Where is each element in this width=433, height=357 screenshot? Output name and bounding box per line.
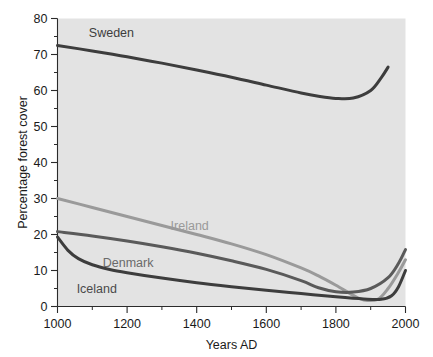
y-tick-label-0: 0	[41, 300, 48, 314]
y-tick-label-20: 20	[34, 228, 48, 242]
chart-figure: 01020304050607080 1000120014001600180020…	[0, 0, 433, 357]
x-tick-label-1000: 1000	[44, 317, 72, 331]
x-tick-label-2000: 2000	[392, 317, 420, 331]
forest-cover-line-chart: 01020304050607080 1000120014001600180020…	[0, 0, 433, 357]
x-tick-label-1400: 1400	[183, 317, 211, 331]
x-tick-label-1200: 1200	[113, 317, 141, 331]
x-axis-tick-labels: 100012001400160018002000	[44, 317, 420, 331]
y-tick-label-10: 10	[34, 264, 48, 278]
y-tick-label-80: 80	[34, 12, 48, 26]
x-axis-title: Years AD	[206, 338, 258, 352]
series-label-denmark: Denmark	[103, 256, 154, 270]
y-tick-label-40: 40	[34, 156, 48, 170]
x-tick-label-1800: 1800	[322, 317, 350, 331]
x-tick-label-1600: 1600	[252, 317, 280, 331]
y-axis-major-ticks	[51, 19, 58, 307]
y-tick-label-60: 60	[34, 84, 48, 98]
y-axis-tick-labels: 01020304050607080	[34, 12, 48, 314]
y-axis-title: Percentage forest cover	[16, 96, 30, 229]
y-tick-label-30: 30	[34, 192, 48, 206]
series-label-sweden: Sweden	[89, 26, 134, 40]
y-tick-label-50: 50	[34, 120, 48, 134]
series-label-ireland: Ireland	[171, 219, 209, 233]
series-label-iceland: Iceland	[77, 282, 117, 296]
y-tick-label-70: 70	[34, 48, 48, 62]
